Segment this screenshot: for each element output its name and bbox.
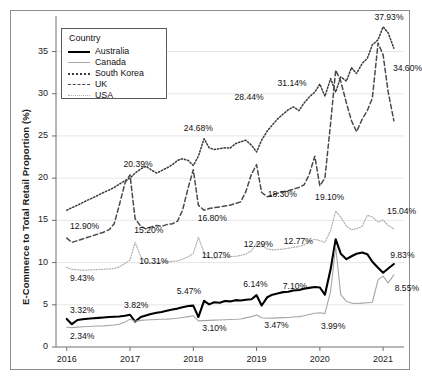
data-label: 7.10% bbox=[283, 281, 307, 291]
data-label: 37.93% bbox=[374, 12, 403, 22]
data-label: 3.82% bbox=[124, 300, 148, 310]
x-tick-label: 2018 bbox=[170, 354, 216, 364]
legend-item-usa[interactable]: USA bbox=[68, 89, 161, 100]
data-label: 9.43% bbox=[70, 273, 94, 283]
data-label: 12.29% bbox=[244, 239, 273, 249]
x-tick-label: 2021 bbox=[360, 354, 406, 364]
legend-label-south-korea: South Korea bbox=[95, 68, 144, 78]
data-label: 15.04% bbox=[387, 206, 416, 216]
legend-label-australia: Australia bbox=[95, 46, 129, 56]
legend-item-australia[interactable]: Australia bbox=[68, 45, 161, 56]
data-label: 3.32% bbox=[70, 305, 94, 315]
data-label: 10.31% bbox=[139, 256, 168, 266]
data-label: 5.47% bbox=[177, 286, 201, 296]
legend-label-usa: USA bbox=[95, 90, 113, 100]
legend-swatch-canada bbox=[68, 57, 90, 67]
data-label: 12.77% bbox=[284, 236, 313, 246]
data-label: 31.14% bbox=[278, 78, 307, 88]
x-tick-label: 2019 bbox=[234, 354, 280, 364]
x-tick-label: 2016 bbox=[44, 354, 90, 364]
y-tick-label: 25 bbox=[26, 130, 48, 140]
data-label: 3.47% bbox=[264, 320, 288, 330]
x-tick-label: 2020 bbox=[297, 354, 343, 364]
legend-swatch-uk bbox=[68, 79, 90, 89]
y-tick-label: 15 bbox=[26, 214, 48, 224]
legend-label-uk: UK bbox=[95, 79, 107, 89]
data-label: 3.10% bbox=[202, 323, 226, 333]
data-label: 16.80% bbox=[198, 213, 227, 223]
data-label: 15.20% bbox=[134, 225, 163, 235]
data-label: 12.90% bbox=[70, 221, 99, 231]
legend-item-uk[interactable]: UK bbox=[68, 78, 161, 89]
data-label: 19.10% bbox=[315, 192, 344, 202]
legend-swatch-usa bbox=[68, 90, 90, 100]
legend-label-canada: Canada bbox=[95, 57, 126, 67]
data-label: 34.60% bbox=[393, 63, 422, 73]
y-tick-label: 30 bbox=[26, 88, 48, 98]
legend-swatch-south-korea bbox=[68, 68, 90, 78]
data-label: 20.39% bbox=[123, 159, 152, 169]
data-label: 9.83% bbox=[390, 250, 414, 260]
data-label: 11.07% bbox=[202, 250, 231, 260]
x-tick-label: 2017 bbox=[107, 354, 153, 364]
data-label: 6.14% bbox=[243, 279, 267, 289]
chart-legend: Country Australia Canada South Korea UK … bbox=[61, 28, 167, 99]
y-tick-label: 5 bbox=[26, 299, 48, 309]
legend-item-canada[interactable]: Canada bbox=[68, 56, 161, 67]
y-tick-label: 10 bbox=[26, 257, 48, 267]
legend-title: Country bbox=[69, 33, 161, 43]
data-label: 24.68% bbox=[184, 123, 213, 133]
y-tick-label: 20 bbox=[26, 172, 48, 182]
data-label: 2.34% bbox=[70, 331, 94, 341]
legend-item-south-korea[interactable]: South Korea bbox=[68, 67, 161, 78]
data-label: 18.30% bbox=[268, 189, 297, 199]
data-label: 28.44% bbox=[235, 92, 264, 102]
data-label: 8.55% bbox=[395, 283, 419, 293]
legend-swatch-australia bbox=[68, 46, 90, 56]
y-tick-label: 0 bbox=[26, 341, 48, 351]
data-label: 3.99% bbox=[321, 321, 345, 331]
y-tick-label: 35 bbox=[26, 46, 48, 56]
